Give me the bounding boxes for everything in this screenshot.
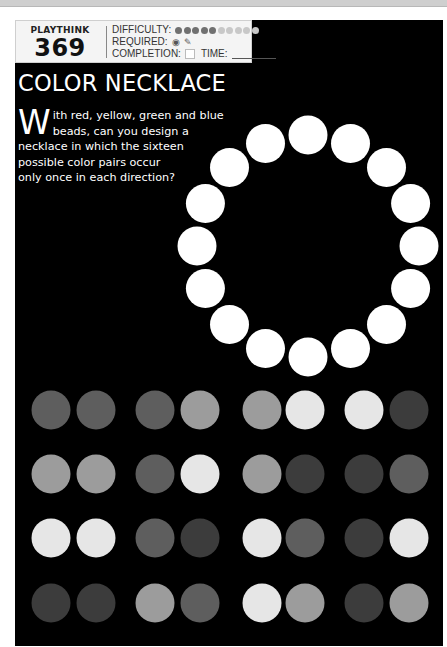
pair-bead — [345, 584, 384, 623]
necklace-ring — [178, 116, 439, 377]
necklace-bead[interactable] — [367, 148, 406, 187]
pair-bead — [243, 584, 282, 623]
pair-bead — [32, 391, 71, 430]
color-pairs-grid — [32, 391, 429, 623]
pair-bead — [32, 519, 71, 558]
necklace-bead[interactable] — [246, 329, 285, 368]
necklace-bead[interactable] — [186, 269, 225, 308]
pair-bead — [390, 519, 429, 558]
pair-bead — [286, 519, 325, 558]
pair-bead — [286, 584, 325, 623]
pair-bead — [243, 455, 282, 494]
pair-bead — [136, 455, 175, 494]
necklace-bead[interactable] — [367, 305, 406, 344]
pair-bead — [32, 455, 71, 494]
color-pair — [32, 391, 116, 430]
pair-bead — [136, 391, 175, 430]
pair-bead — [286, 391, 325, 430]
pair-bead — [390, 584, 429, 623]
color-pair — [345, 455, 429, 494]
pair-bead — [181, 391, 220, 430]
pair-bead — [77, 584, 116, 623]
color-pair — [243, 455, 325, 494]
necklace-bead[interactable] — [178, 227, 217, 266]
pair-bead — [181, 455, 220, 494]
pair-bead — [345, 519, 384, 558]
pair-bead — [390, 391, 429, 430]
necklace-bead[interactable] — [186, 184, 225, 223]
pair-bead — [181, 584, 220, 623]
puzzle-artwork — [0, 0, 447, 647]
color-pair — [345, 391, 429, 430]
color-pair — [136, 455, 220, 494]
color-pair — [136, 391, 220, 430]
pair-bead — [181, 519, 220, 558]
color-pair — [32, 584, 116, 623]
pair-bead — [77, 519, 116, 558]
color-pair — [345, 519, 429, 558]
pair-bead — [243, 391, 282, 430]
pair-bead — [243, 519, 282, 558]
necklace-bead[interactable] — [391, 184, 430, 223]
color-pair — [345, 584, 429, 623]
pair-bead — [77, 455, 116, 494]
necklace-bead[interactable] — [331, 329, 370, 368]
necklace-bead[interactable] — [210, 305, 249, 344]
necklace-bead[interactable] — [331, 124, 370, 163]
pair-bead — [77, 391, 116, 430]
color-pair — [136, 584, 220, 623]
pair-bead — [345, 391, 384, 430]
pair-bead — [136, 519, 175, 558]
necklace-bead[interactable] — [289, 116, 328, 155]
necklace-bead[interactable] — [246, 124, 285, 163]
color-pair — [243, 519, 325, 558]
color-pair — [243, 584, 325, 623]
pair-bead — [136, 584, 175, 623]
pair-bead — [345, 455, 384, 494]
color-pair — [243, 391, 325, 430]
pair-bead — [286, 455, 325, 494]
pair-bead — [32, 584, 71, 623]
color-pair — [136, 519, 220, 558]
color-pair — [32, 519, 116, 558]
necklace-bead[interactable] — [210, 148, 249, 187]
pair-bead — [390, 455, 429, 494]
color-pair — [32, 455, 116, 494]
necklace-bead[interactable] — [289, 338, 328, 377]
necklace-bead[interactable] — [391, 269, 430, 308]
necklace-bead[interactable] — [400, 227, 439, 266]
